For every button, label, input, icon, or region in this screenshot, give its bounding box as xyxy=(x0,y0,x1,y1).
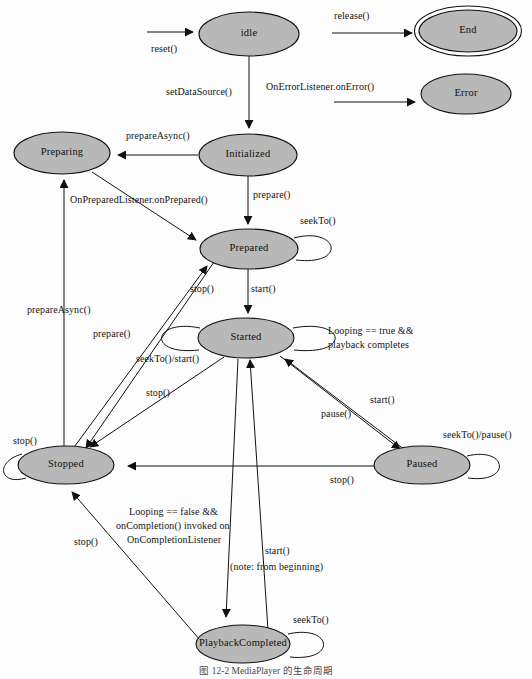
state-label-error: Error xyxy=(454,87,477,98)
edge-label-prepare-left: prepare() xyxy=(93,328,131,340)
edge-label-seek-to-playback-completed: seekTo() xyxy=(293,614,329,626)
state-diagram-canvas: idle End Error Preparing Initialized Pre… xyxy=(0,0,532,679)
state-label-paused: Paused xyxy=(407,458,438,469)
edge-label-start-prepared: start() xyxy=(251,283,276,295)
state-node-initialized[interactable]: Initialized xyxy=(199,134,297,176)
edge-label-seek-to-prepared: seekTo() xyxy=(300,215,336,227)
state-label-idle: idle xyxy=(241,27,258,38)
figure-caption: 图 12-2 MediaPlayer 的生命周期 xyxy=(199,665,332,676)
edge-stop-started xyxy=(90,357,224,447)
edge-label-oncompletion-line3: OnCompletionListener xyxy=(127,534,222,545)
edge-label-start-paused: start() xyxy=(370,394,395,406)
state-node-stopped[interactable]: Stopped xyxy=(18,446,114,484)
edge-label-oncompletion-line2: onCompletion() invoked on xyxy=(116,520,230,532)
edge-label-on-prepared: OnPreparedListener.onPrepared() xyxy=(70,194,208,206)
edge-on-completion xyxy=(226,359,238,617)
state-label-playbackcompleted: PlaybackCompleted xyxy=(199,637,288,648)
state-label-started: Started xyxy=(230,331,262,342)
edge-label-stop-stopped: stop() xyxy=(13,435,37,447)
state-node-error[interactable]: Error xyxy=(421,74,511,114)
edge-label-set-data-source: setDataSource() xyxy=(166,86,232,98)
state-node-end[interactable]: End xyxy=(415,6,522,56)
edge-label-release: release() xyxy=(334,10,369,22)
state-node-started[interactable]: Started xyxy=(198,318,294,358)
edge-label-stop-prepared: stop() xyxy=(190,283,214,295)
edge-label-seek-to-pause: seekTo()/pause() xyxy=(443,429,512,441)
mediaplayer-state-machine-svg: idle End Error Preparing Initialized Pre… xyxy=(0,0,532,679)
edge-label-reset: reset() xyxy=(151,43,177,55)
edge-label-prepare-top: prepare() xyxy=(253,189,291,201)
edge-seek-to-playback-completed xyxy=(288,632,324,657)
state-node-playbackcompleted[interactable]: PlaybackCompleted xyxy=(196,625,290,663)
edge-seek-to-pause xyxy=(467,454,499,478)
edge-label-stop-started: stop() xyxy=(146,387,170,399)
edge-on-prepared xyxy=(92,172,196,240)
state-node-prepared[interactable]: Prepared xyxy=(200,229,298,269)
state-label-stopped: Stopped xyxy=(48,458,84,469)
edge-label-pause: pause() xyxy=(321,408,351,420)
state-node-idle[interactable]: idle xyxy=(199,12,299,56)
edge-label-seek-to-start: seekTo()/start() xyxy=(136,353,199,365)
edge-label-looping-true-line2: playback completes xyxy=(328,339,409,350)
edge-seek-to-start xyxy=(162,326,200,350)
state-node-preparing[interactable]: Preparing xyxy=(14,132,110,174)
edge-label-start-from-beginning-line2: (note: from beginning) xyxy=(230,561,323,573)
edge-label-on-error: OnErrorListener.onError() xyxy=(266,81,374,93)
state-label-preparing: Preparing xyxy=(41,146,84,157)
edge-label-start-from-beginning-line1: start() xyxy=(265,545,290,557)
state-label-prepared: Prepared xyxy=(230,242,269,253)
edge-label-looping-true-line1: Looping == true && xyxy=(328,325,414,336)
edge-label-prepare-async-left: prepareAsync() xyxy=(27,304,91,316)
state-label-initialized: Initialized xyxy=(226,148,271,159)
edge-label-prepare-async-top: prepareAsync() xyxy=(126,130,190,142)
state-node-paused[interactable]: Paused xyxy=(374,446,470,484)
edge-start-from-beginning xyxy=(250,360,268,630)
edge-label-stop-playback-completed: stop() xyxy=(74,536,98,548)
edge-label-stop-paused: stop() xyxy=(330,474,354,486)
state-label-end: End xyxy=(459,24,477,35)
edge-label-oncompletion-line1: Looping == false && xyxy=(129,506,218,517)
edge-seek-to-prepared xyxy=(294,236,331,261)
